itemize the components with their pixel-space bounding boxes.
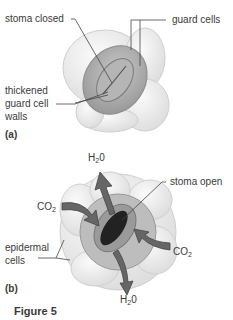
h2o-bottom-end: 0	[131, 294, 137, 305]
stomata-diagram	[0, 0, 233, 320]
label-thickened-1: thickened	[5, 85, 48, 97]
label-thickened-2: guard cell	[5, 98, 48, 110]
label-epidermal-1: epidermal	[5, 242, 49, 254]
label-co2-right: CO2	[173, 246, 192, 261]
co2-right-text: CO	[173, 246, 188, 257]
label-stoma-closed: stoma closed	[5, 13, 64, 25]
label-thickened-3: walls	[5, 111, 27, 123]
label-h2o-top: H20	[88, 152, 105, 167]
label-co2-left: CO2	[37, 201, 56, 216]
co2-right-sub: 2	[188, 251, 192, 258]
label-h2o-bottom: H20	[120, 294, 137, 309]
panel-a-tag: (a)	[5, 129, 17, 141]
h2o-top-end: 0	[99, 152, 105, 163]
co2-left-text: CO	[37, 201, 52, 212]
label-guard-cells: guard cells	[172, 14, 220, 26]
label-epidermal-2: cells	[5, 255, 25, 267]
label-stoma-open: stoma open	[170, 176, 222, 188]
panel-a-cells	[63, 28, 169, 132]
co2-left-sub: 2	[52, 206, 56, 213]
panel-b-tag: (b)	[5, 283, 18, 295]
figure-caption: Figure 5	[14, 305, 57, 317]
panel-b-cells	[60, 172, 177, 290]
